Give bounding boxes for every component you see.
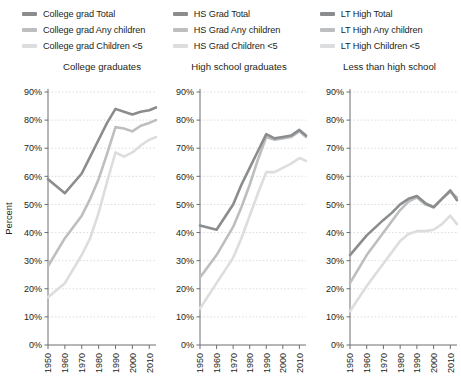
y-tick-label: 70% [24, 143, 42, 153]
line-swatch-icon [320, 28, 335, 32]
y-tick-label: 30% [176, 256, 194, 266]
y-tick-label: 30% [24, 256, 42, 266]
y-tick-label: 30% [326, 256, 344, 266]
line-swatch-icon [320, 12, 335, 16]
y-tick-label: 40% [326, 228, 344, 238]
y-tick-label: 90% [176, 87, 194, 97]
y-tick-label: 20% [176, 284, 194, 294]
series-line [200, 130, 306, 230]
legend-item-college-grad-any-children: College grad Any children [22, 22, 159, 38]
y-tick-label: 0% [29, 340, 42, 350]
y-tick-label: 90% [24, 87, 42, 97]
legend-item-college-grad-children-under5: College grad Children <5 [22, 38, 159, 54]
x-tick-label: 2010 [295, 353, 305, 373]
x-tick-label: 1960 [212, 353, 222, 373]
line-swatch-icon [22, 12, 37, 16]
x-tick-label: 2000 [429, 353, 439, 373]
legend-label: HS Grad Children <5 [194, 41, 278, 51]
y-tick-label: 80% [176, 115, 194, 125]
legend-item-lt-high-any-children: LT High Any children [320, 22, 461, 38]
x-tick-label: 1960 [362, 353, 372, 373]
y-tick-label: 60% [24, 172, 42, 182]
x-tick-label: 1970 [379, 353, 389, 373]
x-tick-label: 2000 [128, 353, 138, 373]
x-tick-label: 1970 [77, 353, 87, 373]
x-tick-label: 1990 [262, 353, 272, 373]
x-tick-label: 1990 [111, 353, 121, 373]
series-line [350, 190, 457, 255]
panel-high-school-graduates: High school graduates 0%10%20%30%40%50%6… [160, 58, 310, 386]
x-tick-label: 1960 [60, 353, 70, 373]
x-tick-label: 2000 [278, 353, 288, 373]
y-tick-label: 70% [176, 143, 194, 153]
legend-label: LT High Any children [341, 25, 423, 35]
legend-label: College grad Children <5 [43, 41, 143, 51]
line-swatch-icon [22, 44, 37, 48]
y-tick-label: 0% [181, 340, 194, 350]
y-tick-label: 80% [24, 115, 42, 125]
line-swatch-icon [22, 28, 37, 32]
series-line [200, 158, 306, 308]
y-tick-label: 60% [176, 172, 194, 182]
y-tick-label: 20% [326, 284, 344, 294]
line-swatch-icon [173, 28, 188, 32]
line-swatch-icon [173, 12, 188, 16]
line-chart-less-than-high-school: 0%10%20%30%40%50%60%70%80%90%19501960197… [310, 58, 461, 386]
x-tick-label: 1970 [229, 353, 239, 373]
x-tick-label: 2010 [145, 353, 155, 373]
legend-item-lt-high-total: LT High Total [320, 6, 461, 22]
y-tick-label: 10% [24, 312, 42, 322]
legend-item-hs-grad-total: HS Grad Total [173, 6, 310, 22]
x-tick-label: 2010 [446, 353, 456, 373]
y-tick-label: 60% [326, 172, 344, 182]
panel-college-graduates: College graduates 0%10%20%30%40%50%60%70… [0, 58, 160, 386]
chart-panels: College graduates 0%10%20%30%40%50%60%70… [0, 58, 461, 386]
series-line [48, 137, 156, 297]
legend-label: HS Grad Total [194, 9, 250, 19]
legend-label: HS Grad Any children [194, 25, 280, 35]
legend-label: LT High Total [341, 9, 393, 19]
legend-item-hs-grad-any-children: HS Grad Any children [173, 22, 310, 38]
x-tick-label: 1980 [245, 353, 255, 373]
legend-column-hs-grad: HS Grad Total HS Grad Any children HS Gr… [159, 6, 310, 58]
line-swatch-icon [320, 44, 335, 48]
panel-less-than-high-school: Less than high school 0%10%20%30%40%50%6… [310, 58, 461, 386]
y-tick-label: 70% [326, 143, 344, 153]
x-tick-label: 1950 [195, 353, 205, 373]
legend-label: LT High Children <5 [341, 41, 420, 51]
x-tick-label: 1980 [396, 353, 406, 373]
y-tick-label: 0% [331, 340, 344, 350]
series-line [350, 216, 457, 312]
y-axis-title: Percent [3, 202, 14, 235]
y-tick-label: 50% [24, 200, 42, 210]
line-swatch-icon [173, 44, 188, 48]
line-chart-high-school-graduates: 0%10%20%30%40%50%60%70%80%90%19501960197… [160, 58, 310, 386]
line-chart-college-graduates: 0%10%20%30%40%50%60%70%80%90%19501960197… [0, 58, 160, 386]
y-tick-label: 80% [326, 115, 344, 125]
chart-legend: College grad Total College grad Any chil… [0, 6, 461, 58]
y-tick-label: 40% [24, 228, 42, 238]
y-tick-label: 10% [176, 312, 194, 322]
legend-column-lt-high: LT High Total LT High Any children LT Hi… [310, 6, 461, 58]
legend-item-college-grad-total: College grad Total [22, 6, 159, 22]
legend-label: College grad Any children [43, 25, 145, 35]
y-tick-label: 10% [326, 312, 344, 322]
x-tick-label: 1980 [94, 353, 104, 373]
y-tick-label: 90% [326, 87, 344, 97]
legend-label: College grad Total [43, 9, 115, 19]
y-tick-label: 40% [176, 228, 194, 238]
legend-column-college-grad: College grad Total College grad Any chil… [0, 6, 159, 58]
x-tick-label: 1950 [345, 353, 355, 373]
x-tick-label: 1950 [43, 353, 53, 373]
legend-item-lt-high-children-under5: LT High Children <5 [320, 38, 461, 54]
y-tick-label: 50% [176, 200, 194, 210]
x-tick-label: 1990 [412, 353, 422, 373]
legend-item-hs-grad-children-under5: HS Grad Children <5 [173, 38, 310, 54]
y-tick-label: 20% [24, 284, 42, 294]
y-tick-label: 50% [326, 200, 344, 210]
